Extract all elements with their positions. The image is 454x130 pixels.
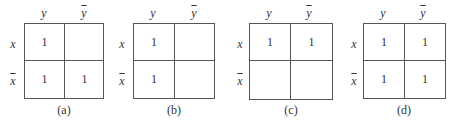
row-label-x-bar: x (347, 74, 361, 89)
cell-x-ybar: 1 (405, 24, 445, 60)
col-label-y: y (373, 6, 393, 21)
cell-x-ybar (65, 24, 104, 60)
cell-xbar-ybar (175, 61, 214, 98)
row-label-x: x (347, 37, 361, 52)
kmap-panel-c: y y x x 1 1 (c) (220, 0, 340, 130)
col-label-y-bar: y (299, 6, 319, 21)
kmap-grid: 1 1 (133, 23, 215, 99)
kmap-panel-a: y y x x 1 1 1 (a) (0, 0, 110, 130)
cell-x-ybar (175, 24, 214, 60)
cell-xbar-ybar (291, 61, 332, 99)
row-label-x: x (6, 37, 20, 52)
cell-xbar-y: 1 (134, 61, 174, 98)
row-label-x-bar: x (6, 74, 20, 89)
kmap-grid: 1 1 1 1 (363, 23, 446, 99)
cell-x-y: 1 (364, 24, 404, 60)
col-label-y-bar: y (74, 6, 94, 21)
kmap-panel-d: y y x x 1 1 1 1 (d) (334, 0, 454, 130)
col-label-y: y (34, 6, 54, 21)
cell-xbar-y: 1 (364, 61, 404, 98)
row-label-x-bar: x (115, 74, 129, 89)
col-label-y-bar: y (184, 6, 204, 21)
panel-caption: (d) (389, 103, 419, 118)
cell-x-ybar: 1 (291, 24, 332, 60)
cell-xbar-y (250, 61, 290, 99)
panel-caption: (b) (159, 103, 189, 118)
kmap-grid: 1 1 1 (24, 23, 104, 99)
row-label-x: x (115, 37, 129, 52)
row-label-x-bar: x (233, 74, 247, 89)
kmap-grid: 1 1 (249, 23, 333, 100)
cell-xbar-ybar: 1 (405, 61, 445, 98)
panel-caption: (a) (49, 103, 79, 118)
cell-xbar-ybar: 1 (65, 61, 104, 98)
col-label-y: y (259, 6, 279, 21)
cell-x-y: 1 (25, 24, 64, 60)
cell-xbar-y: 1 (25, 61, 64, 98)
panel-caption: (c) (276, 103, 306, 118)
col-label-y-bar: y (413, 6, 433, 21)
cell-x-y: 1 (250, 24, 290, 60)
row-label-x: x (233, 37, 247, 52)
col-label-y: y (143, 6, 163, 21)
kmap-panel-b: y y x x 1 1 (b) (110, 0, 224, 130)
cell-x-y: 1 (134, 24, 174, 60)
